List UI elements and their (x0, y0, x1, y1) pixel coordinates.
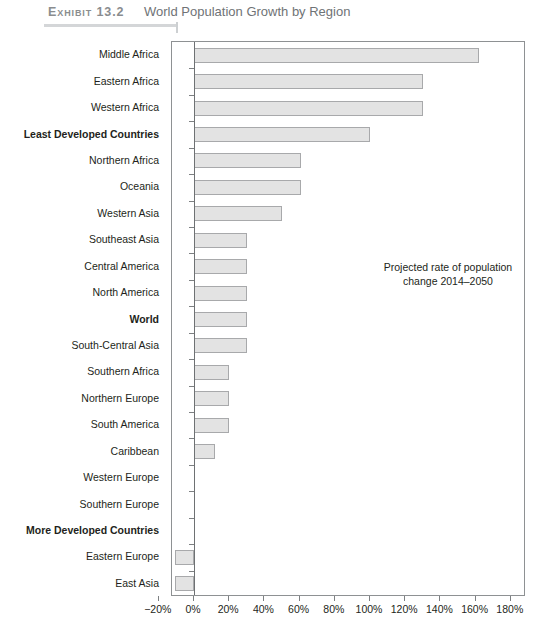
y-axis-label: Western Africa (91, 101, 159, 113)
bar (194, 365, 229, 380)
bar-row (172, 174, 524, 200)
y-axis-label: Southern Africa (87, 365, 159, 377)
x-axis-tick (439, 596, 440, 601)
y-axis-label: Least Developed Countries (24, 128, 159, 140)
y-axis-label: Northern Africa (89, 154, 159, 166)
bar (194, 259, 247, 274)
x-axis-tick-label: 20% (218, 603, 239, 615)
bar (194, 286, 247, 301)
y-axis-label: More Developed Countries (26, 524, 159, 536)
bar (194, 312, 247, 327)
bar (194, 74, 423, 89)
bar (194, 206, 282, 221)
bar (194, 48, 479, 63)
y-axis-label: Central America (84, 260, 159, 272)
y-axis-label: Western Asia (97, 207, 159, 219)
bar-row (172, 518, 524, 544)
y-axis-label: East Asia (115, 577, 159, 589)
exhibit-header: Exhibit 13.2 World Population Growth by … (0, 0, 542, 34)
bar-row (172, 42, 524, 68)
y-axis-label: South America (91, 418, 159, 430)
population-growth-bar-chart: Middle AfricaEastern AfricaWestern Afric… (0, 36, 542, 627)
bar-row (172, 544, 524, 570)
bar-row (172, 201, 524, 227)
x-axis-tick-label: 180% (496, 603, 523, 615)
x-axis-tick (193, 596, 194, 601)
x-axis-tick-label: 80% (323, 603, 344, 615)
bar (194, 180, 301, 195)
x-axis-tick (510, 596, 511, 601)
y-axis-label: South-Central Asia (71, 339, 159, 351)
x-axis-tick-label: 120% (391, 603, 418, 615)
y-axis-label: Middle Africa (99, 48, 159, 60)
x-axis-tick-label: 60% (288, 603, 309, 615)
x-axis-tick-label: 140% (426, 603, 453, 615)
bar-row (172, 68, 524, 94)
bar (194, 101, 423, 116)
header-tick-mark (176, 22, 178, 33)
x-axis-tick (404, 596, 405, 601)
y-axis-label: Eastern Europe (86, 550, 159, 562)
x-axis-tick-label: 100% (356, 603, 383, 615)
y-axis-label: Caribbean (111, 445, 159, 457)
bar-row (172, 306, 524, 332)
bar-row (172, 491, 524, 517)
x-axis-tick (475, 596, 476, 601)
x-axis-tick-label: 160% (461, 603, 488, 615)
bar-row (172, 227, 524, 253)
y-axis-label: Southern Europe (80, 498, 159, 510)
bar-row (172, 571, 524, 597)
annotation-line-1: Projected rate of population (372, 260, 524, 274)
bar-row (172, 412, 524, 438)
plot-area: Projected rate of population change 2014… (171, 41, 525, 596)
bar-row (172, 465, 524, 491)
bar (194, 418, 229, 433)
exhibit-title: World Population Growth by Region (144, 4, 350, 19)
x-axis-tick (158, 596, 159, 601)
x-axis: −20%0%20%40%60%80%100%120%140%160%180% (171, 596, 525, 624)
chart-annotation: Projected rate of population change 2014… (372, 260, 524, 288)
bar-row (172, 386, 524, 412)
bar-row (172, 148, 524, 174)
bar (194, 153, 301, 168)
bar (194, 233, 247, 248)
x-axis-tick-label: 40% (253, 603, 274, 615)
y-axis-category-labels: Middle AfricaEastern AfricaWestern Afric… (0, 41, 165, 596)
y-axis-label: North America (92, 286, 159, 298)
exhibit-number-label: Exhibit 13.2 (48, 5, 124, 19)
bar (194, 338, 247, 353)
bar-row (172, 438, 524, 464)
x-axis-tick-label: −20% (144, 603, 171, 615)
bar-row (172, 359, 524, 385)
zero-baseline (194, 42, 195, 595)
bar-row (172, 333, 524, 359)
bar (175, 576, 194, 591)
x-axis-tick (369, 596, 370, 601)
x-axis-tick (299, 596, 300, 601)
bar-rows (172, 42, 524, 595)
y-axis-label: Southeast Asia (89, 233, 159, 245)
bar-row (172, 95, 524, 121)
x-axis-tick-label: 0% (185, 603, 200, 615)
bar (194, 391, 229, 406)
x-axis-tick (263, 596, 264, 601)
bar (194, 444, 215, 459)
x-axis-tick (334, 596, 335, 601)
annotation-line-2: change 2014–2050 (372, 274, 524, 288)
y-axis-label: World (129, 313, 159, 325)
y-axis-label: Northern Europe (81, 392, 159, 404)
header-rule (44, 24, 178, 27)
bar-row (172, 121, 524, 147)
y-axis-label: Western Europe (83, 471, 159, 483)
x-axis-tick (228, 596, 229, 601)
y-axis-label: Oceania (120, 180, 159, 192)
bar (194, 127, 370, 142)
y-axis-label: Eastern Africa (94, 75, 159, 87)
bar (175, 550, 194, 565)
